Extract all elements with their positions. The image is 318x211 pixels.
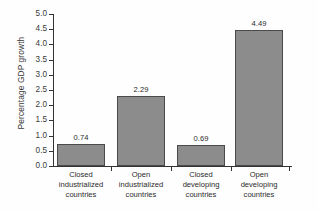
bar — [177, 145, 225, 166]
y-tick-label: 1.0 — [36, 131, 47, 140]
y-tick-label: 4.5 — [36, 24, 47, 33]
x-axis-spine — [53, 166, 292, 167]
y-tick-label: 3.0 — [36, 70, 47, 79]
bar-chart-figure: Percentage GDP growth 5.04.54.03.53.02.5… — [0, 0, 318, 211]
y-tick-label: 2.5 — [36, 85, 47, 94]
y-tick-mark — [49, 151, 53, 152]
y-tick-mark — [49, 120, 53, 121]
x-category-label-line: Open — [223, 170, 295, 180]
bar — [57, 144, 105, 166]
bar — [235, 30, 283, 166]
bar-value-label: 4.49 — [235, 19, 283, 28]
y-tick-label: 2.0 — [36, 100, 47, 109]
y-tick-mark — [49, 29, 53, 30]
y-tick-label: 5.0 — [36, 9, 47, 18]
bar — [117, 96, 165, 166]
y-axis-spine — [53, 14, 54, 166]
bar-value-label: 2.29 — [117, 85, 165, 94]
y-tick-mark — [49, 166, 53, 167]
y-tick-mark — [49, 75, 53, 76]
y-tick-label: 4.0 — [36, 39, 47, 48]
y-tick-label: 0.0 — [36, 161, 47, 170]
y-tick-mark — [49, 14, 53, 15]
y-axis-title: Percentage GDP growth — [16, 13, 26, 153]
x-category-label: Opendevelopingcountries — [223, 170, 295, 201]
x-category-label-line: developing — [223, 180, 295, 190]
y-tick-label: 3.5 — [36, 55, 47, 64]
y-tick-mark — [49, 44, 53, 45]
x-category-label-line: countries — [223, 190, 295, 200]
y-tick-mark — [49, 60, 53, 61]
bar-value-label: 0.74 — [57, 133, 105, 142]
bar-value-label: 0.69 — [177, 134, 225, 143]
y-tick-mark — [49, 136, 53, 137]
y-tick-label: 0.5 — [36, 146, 47, 155]
y-tick-mark — [49, 105, 53, 106]
plot-area: 5.04.54.03.53.02.52.01.51.00.50.0 0.742.… — [53, 14, 292, 166]
y-tick-mark — [49, 90, 53, 91]
y-tick-label: 1.5 — [36, 115, 47, 124]
